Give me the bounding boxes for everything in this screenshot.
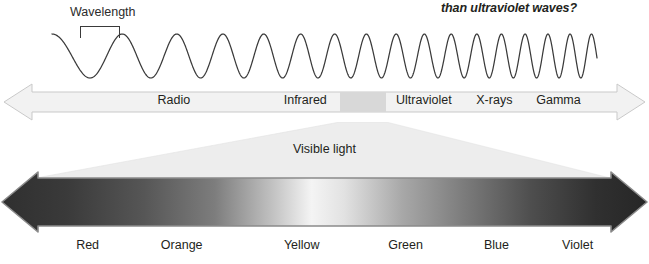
color-label-violet: Violet [522, 238, 632, 252]
visible-spectrum-bar [0, 170, 649, 234]
em-spectrum-band: Radio Infrared Ultraviolet X-rays Gamma [4, 80, 645, 124]
wavelength-label: Wavelength [70, 5, 136, 19]
wavelength-bracket [80, 26, 120, 38]
visible-spectrum-arrow [2, 172, 647, 232]
band-label-gamma: Gamma [475, 93, 642, 107]
visible-light-label: Visible light [0, 142, 649, 156]
color-label-orange: Orange [117, 238, 247, 252]
electromagnetic-spectrum-figure: than ultraviolet waves? Wavelength Radio… [0, 0, 649, 264]
caption-fragment-text: than ultraviolet waves? [441, 1, 641, 15]
visible-spectrum-arrow-shape [0, 170, 649, 234]
